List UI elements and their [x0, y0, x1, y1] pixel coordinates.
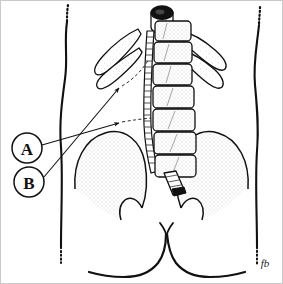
vertebral-body-1	[155, 21, 191, 41]
vertebral-body-6	[154, 132, 196, 154]
vertebral-body-group	[153, 21, 196, 177]
figure-canvas: A B fb	[1, 1, 282, 283]
vertebral-body-4	[153, 86, 194, 108]
anatomical-figure: A B fb	[0, 0, 283, 284]
gluteal-cleft-group	[89, 223, 245, 277]
gluteal-cleft-right	[167, 234, 245, 277]
vertebral-body-2	[154, 42, 192, 63]
label-b[interactable]: B	[14, 167, 44, 197]
gluteal-cleft-left	[89, 234, 166, 277]
iliac-crest-left-fill	[75, 132, 146, 219]
torso-right-dotted-fade	[259, 7, 260, 25]
torso-right-outline	[254, 25, 259, 247]
label-b-letter: B	[23, 174, 34, 193]
torso-left-dotted-fade	[67, 5, 68, 22]
vertebral-body-3	[153, 64, 192, 85]
label-a-letter: A	[21, 140, 34, 159]
gluteal-cleft-notch-right	[167, 223, 173, 234]
gluteal-cleft-notch-left	[160, 223, 166, 234]
vertebral-body-5	[153, 109, 195, 131]
artist-signature: fb	[261, 257, 270, 269]
label-a[interactable]: A	[12, 133, 42, 163]
torso-left-outline	[60, 22, 67, 247]
dural-sac-lumen-highlight	[156, 10, 165, 15]
